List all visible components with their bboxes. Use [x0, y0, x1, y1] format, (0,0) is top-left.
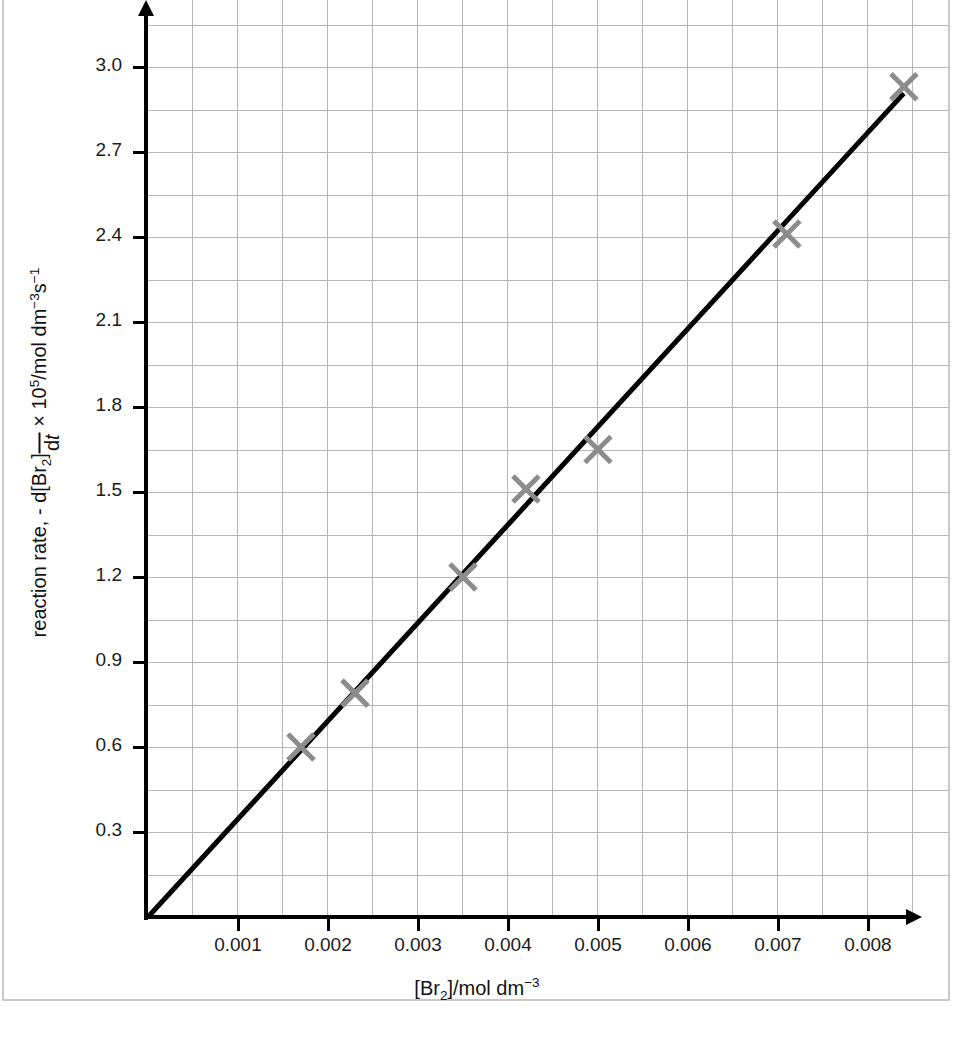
- best-fit-line: [148, 95, 902, 917]
- x-tick-label: 0.003: [368, 934, 468, 956]
- page-frame-left-rule: [2, 0, 4, 1000]
- y-tick-mark: [133, 406, 148, 409]
- plot-area: [148, 0, 948, 917]
- y-tick-mark: [133, 746, 148, 749]
- y-tick-mark: [133, 576, 148, 579]
- y-axis-title-units-s: s: [28, 283, 50, 293]
- x-tick-label: 0.001: [188, 934, 288, 956]
- y-axis-title-lead-subscript: 2: [39, 459, 54, 467]
- x-tick-label: 0.007: [728, 934, 828, 956]
- x-tick-label: 0.005: [548, 934, 648, 956]
- y-axis-title-exponent: 5: [27, 380, 42, 388]
- y-tick-label: 0.3: [52, 819, 122, 841]
- x-tick-mark: [777, 915, 780, 931]
- y-tick-mark: [133, 66, 148, 69]
- x-tick-label: 0.004: [458, 934, 558, 956]
- y-tick-mark: [133, 831, 148, 834]
- y-tick-label: 3.0: [52, 54, 122, 76]
- y-tick-mark: [133, 236, 148, 239]
- page-frame-right-rule: [948, 0, 950, 1000]
- chart-page: 0.30.60.91.21.51.82.12.42.73.0 0.0010.00…: [0, 0, 954, 1049]
- x-tick-mark: [327, 915, 330, 931]
- x-tick-label: 0.006: [638, 934, 738, 956]
- y-axis-title-fraction: dt: [18, 432, 63, 453]
- y-axis-title-units-exp1: −3: [27, 293, 42, 309]
- y-axis-title-units-exp2: −1: [27, 268, 42, 284]
- x-tick-label: 0.008: [818, 934, 918, 956]
- fraction-denominator-t: t: [41, 434, 63, 440]
- x-tick-label: 0.002: [278, 934, 378, 956]
- y-tick-mark: [133, 321, 148, 324]
- y-axis-arrowhead: [138, 0, 154, 16]
- data-point-cross-marker: [342, 680, 368, 706]
- fraction-denominator: dt: [39, 432, 63, 453]
- y-axis-title-lead-close: ]: [28, 453, 50, 459]
- fraction-numerator-spacer: [18, 432, 39, 453]
- x-axis-arrowhead: [906, 909, 922, 925]
- x-tick-mark: [687, 915, 690, 931]
- x-tick-mark: [417, 915, 420, 931]
- y-axis-title-times: × 10: [28, 387, 50, 432]
- data-point-cross-marker: [288, 734, 314, 760]
- data-point-cross-marker: [585, 436, 611, 462]
- x-tick-mark: [507, 915, 510, 931]
- x-tick-mark: [237, 915, 240, 931]
- y-axis-title-lead: reaction rate, - d[Br: [28, 466, 50, 637]
- y-axis-title-units: /mol dm: [28, 309, 50, 380]
- data-point-cross-marker: [513, 476, 539, 502]
- y-axis-line: [144, 8, 148, 920]
- data-point-cross-marker: [450, 564, 476, 590]
- y-tick-mark: [133, 491, 148, 494]
- x-axis-line: [148, 915, 911, 919]
- y-tick-mark: [133, 661, 148, 664]
- x-axis-title: [Br2]/mol dm−3: [0, 975, 954, 1003]
- y-axis-title: reaction rate, - d[Br2] dt × 105/mol dm−…: [19, 103, 64, 803]
- x-axis-title-superscript: −3: [524, 975, 540, 990]
- fraction-denominator-d: d: [41, 440, 63, 451]
- y-tick-mark: [133, 151, 148, 154]
- x-tick-mark: [597, 915, 600, 931]
- x-axis-title-prefix: [Br: [414, 977, 440, 999]
- data-series-layer: [148, 0, 948, 917]
- x-tick-mark: [867, 915, 870, 931]
- x-axis-title-mid: ]/mol dm: [447, 977, 524, 999]
